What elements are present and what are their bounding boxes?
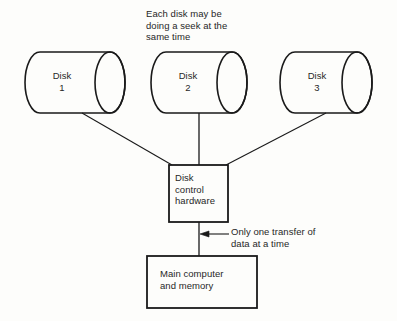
connector-disk-3-to-controller [226,113,326,165]
disk-subsystem-diagram: Each disk may be doing a seek at the sam… [0,0,397,321]
disk-control-hardware-label: Disk control hardware [175,172,231,207]
disk-2-label: Disk 2 [161,70,215,93]
transfer-note-arrow-icon [200,231,209,237]
main-computer-label: Main computer and memory [160,268,260,291]
transfer-annotation-text: Only one transfer of data at a time [231,226,381,249]
disk-3-label: Disk 3 [290,70,344,93]
seek-annotation-text: Each disk may be doing a seek at the sam… [146,8,266,43]
disk-1-label: Disk 1 [35,70,89,93]
connector-disk-1-to-controller [82,113,172,165]
